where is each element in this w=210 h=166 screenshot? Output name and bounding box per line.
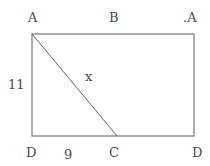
label-top-middle: B	[109, 11, 119, 24]
label-top-left: A	[28, 11, 37, 24]
label-side-length: 11	[8, 78, 25, 91]
rectangle	[32, 34, 194, 136]
label-diagonal: x	[85, 70, 92, 83]
label-bottom-middle: C	[109, 146, 119, 159]
label-bottom-left: D	[26, 146, 36, 159]
diagonal-line	[32, 34, 117, 136]
label-bottom-right: D	[192, 146, 202, 159]
label-top-right: .A	[183, 11, 197, 24]
label-bottom-segment: 9	[64, 148, 72, 161]
